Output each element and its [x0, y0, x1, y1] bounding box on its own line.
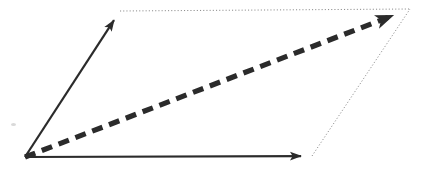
scan-smudge-artifact	[11, 123, 16, 126]
vector-b-arrow	[25, 156, 301, 157]
resultant-vector-arrow	[25, 15, 393, 157]
vector-diagram-figure	[0, 0, 428, 172]
vector-diagram-canvas	[0, 0, 428, 172]
construction-line-right	[312, 9, 410, 156]
construction-line-top	[120, 9, 410, 11]
vector-a-arrow	[25, 20, 114, 157]
